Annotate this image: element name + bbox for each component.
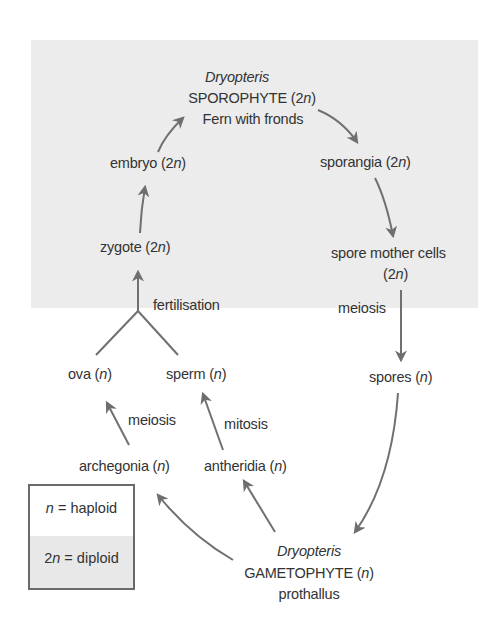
arrow-archegonia-to-ova — [107, 403, 129, 445]
arrow-embryo-to-sporophyte — [158, 118, 183, 152]
label-meiosis-spores: meiosis — [338, 298, 386, 319]
arrow-antheridia-to-sperm — [203, 394, 223, 450]
node-embryo: embryo (2n) — [110, 153, 186, 174]
node-sperm-label: sperm — [166, 366, 205, 382]
arrow-sporophyte-to-sporangia — [318, 110, 357, 142]
node-antheridia-label: antheridia — [204, 458, 266, 474]
fertilisation-branch-sperm — [138, 311, 178, 355]
node-archegonia-label: archegonia — [79, 458, 149, 474]
node-archegonia: archegonia (n) — [79, 456, 170, 477]
gametophyte-name: GAMETOPHYTE — [244, 565, 353, 581]
gametophyte-description: prothallus — [279, 584, 340, 605]
gametophyte-title: GAMETOPHYTE (n) — [244, 563, 374, 584]
node-ova-label: ova — [68, 366, 91, 382]
label-meiosis-ova: meiosis — [128, 410, 176, 431]
legend-diploid-text: = diploid — [60, 550, 118, 566]
sporophyte-name: SPOROPHYTE — [188, 90, 287, 106]
node-spore-mother-cells: spore mother cells — [331, 243, 446, 264]
legend-haploid-symbol: n — [46, 500, 54, 516]
node-sporangia-label: sporangia — [320, 154, 382, 170]
node-sporangia: sporangia (2n) — [320, 152, 411, 173]
node-spores: spores (n) — [369, 367, 432, 388]
fertilisation-branch-ova — [96, 311, 138, 355]
node-sperm: sperm (n) — [166, 364, 226, 385]
label-mitosis-sperm: mitosis — [224, 414, 268, 435]
sporophyte-title: SPOROPHYTE (2n) — [188, 88, 316, 109]
arrow-gametophyte-to-antheridia — [244, 481, 275, 532]
arrow-sporangia-to-spore-mother-cells — [375, 178, 393, 236]
arrow-gametophyte-to-archegonia — [158, 495, 233, 560]
node-antheridia: antheridia (n) — [204, 456, 287, 477]
legend: n = haploid 2n = diploid — [28, 484, 135, 590]
gametophyte-genus: Dryopteris — [277, 541, 341, 562]
legend-diploid: 2n = diploid — [30, 550, 133, 566]
sporophyte-description: Fern with fronds — [203, 109, 304, 130]
node-spores-label: spores — [369, 369, 411, 385]
node-zygote: zygote (2n) — [100, 237, 170, 258]
sporophyte-genus: Dryopteris — [205, 67, 269, 88]
node-embryo-label: embryo — [110, 155, 157, 171]
node-zygote-label: zygote — [100, 239, 142, 255]
node-spore-mother-cells-ploidy: (2n) — [383, 264, 408, 285]
arrow-zygote-to-embryo — [140, 187, 145, 233]
arrow-spores-to-gametophyte — [355, 393, 398, 532]
legend-haploid: n = haploid — [30, 500, 133, 516]
legend-haploid-text: = haploid — [54, 500, 117, 516]
node-ova: ova (n) — [68, 364, 112, 385]
label-fertilisation: fertilisation — [153, 295, 220, 316]
